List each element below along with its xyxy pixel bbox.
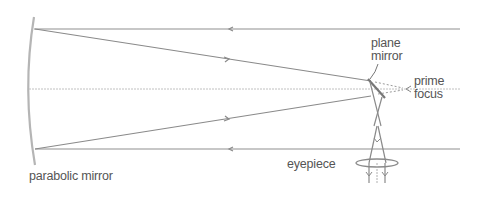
top-reflected-ray <box>35 29 371 81</box>
diverging-ray-left <box>369 126 377 163</box>
parabolic-mirror-label: parabolic mirror <box>29 170 113 183</box>
arrow-top-reflected-icon <box>224 57 229 62</box>
arrow-down-mid-icon <box>374 138 381 142</box>
parabolic-mirror <box>28 17 35 165</box>
plane-mirror-leader <box>370 64 378 79</box>
virtual-ray-top <box>375 82 403 88</box>
prime-focus-label: prime focus <box>414 75 444 101</box>
diverging-ray-right <box>378 126 386 163</box>
eyepiece-label: eyepiece <box>287 158 335 171</box>
plane-mirror-label: plane mirror <box>371 37 402 63</box>
bottom-reflected-ray <box>35 96 371 149</box>
